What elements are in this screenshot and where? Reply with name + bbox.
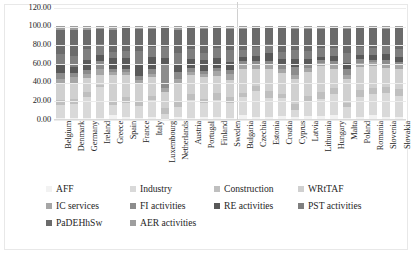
stacked-bar[interactable] (343, 26, 351, 119)
bar-segment (226, 103, 234, 118)
bar-segment (213, 48, 221, 58)
legend-swatch-icon (46, 186, 52, 192)
category-label-slot: Austria (184, 121, 197, 179)
legend-item[interactable]: AER activities (130, 218, 196, 228)
bar-segment (226, 29, 234, 50)
bar-segment (239, 115, 247, 119)
bar-segment (122, 75, 130, 97)
stacked-bar[interactable] (278, 26, 286, 119)
legend-label: WRtTAF (308, 184, 343, 194)
stacked-bar[interactable] (239, 26, 247, 119)
stacked-bar[interactable] (226, 26, 234, 119)
bar-segment (70, 30, 78, 57)
category-label-slot: Estonia (263, 121, 276, 179)
y-axis-tick-label: 40.00 (33, 78, 51, 86)
stacked-bar[interactable] (369, 26, 377, 119)
bar-segment (109, 30, 117, 52)
stacked-bar[interactable] (56, 26, 64, 119)
bar-segment (343, 29, 351, 54)
category-label-slot: Hungary (328, 121, 341, 179)
stacked-bar[interactable] (265, 26, 273, 119)
legend-label: Industry (140, 184, 172, 194)
legend-item[interactable]: WRtTAF (298, 184, 343, 194)
bar-segment (56, 83, 64, 100)
bar-segment (382, 29, 390, 47)
bar-segment (187, 118, 195, 119)
stacked-bar[interactable] (135, 26, 143, 119)
bar-segment (382, 68, 390, 88)
legend-item[interactable]: Industry (130, 184, 172, 194)
category-label-slot: Belgium (54, 121, 67, 179)
stacked-bar[interactable] (200, 26, 208, 119)
legend-swatch-icon (214, 186, 220, 192)
bar-segment (330, 69, 338, 89)
bar-segment (317, 66, 325, 92)
stacked-bar[interactable] (252, 26, 260, 119)
bar-segment (161, 92, 169, 108)
bar-segment (135, 29, 143, 51)
legend-item[interactable]: IC services (46, 201, 99, 211)
category-label-slot: Latvia (302, 121, 315, 179)
category-label-slot: Cyprus (289, 121, 302, 179)
stacked-bar[interactable] (70, 26, 78, 119)
bar-segment (330, 48, 338, 56)
stacked-bar[interactable] (304, 26, 312, 119)
category-label-slot: Croatia (276, 121, 289, 179)
bar-segment (70, 56, 78, 67)
bar-segment (369, 115, 377, 119)
bar-segment (291, 117, 299, 119)
bar-segment (330, 94, 338, 116)
stacked-bar[interactable] (174, 26, 182, 119)
category-label-slot: France (132, 121, 145, 179)
bar-segment (356, 97, 364, 116)
legend-item[interactable]: PST activities (298, 201, 361, 211)
bar-segment (252, 28, 260, 47)
bar-segment (382, 93, 390, 117)
bar-segment (187, 75, 195, 94)
bar-segment (96, 87, 104, 118)
bar-segment (109, 115, 117, 119)
bar-segment (161, 47, 169, 58)
stacked-bar[interactable] (109, 26, 117, 119)
bar-segment (83, 118, 91, 119)
stacked-bar[interactable] (213, 26, 221, 119)
bar-segment (356, 117, 364, 119)
legend-item[interactable]: Construction (214, 184, 274, 194)
stacked-bar[interactable] (395, 26, 403, 119)
legend-item[interactable]: RE activities (214, 201, 273, 211)
stacked-bar[interactable] (161, 26, 169, 119)
stacked-bar[interactable] (382, 26, 390, 119)
category-label-slot: Czechia (249, 121, 262, 179)
bar-segment (122, 117, 130, 119)
stacked-bar[interactable] (122, 26, 130, 119)
bar-segment (122, 28, 130, 50)
bar-segment (291, 67, 299, 75)
stacked-bar[interactable] (356, 26, 364, 119)
legend-swatch-icon (46, 203, 52, 209)
stacked-bar[interactable] (83, 26, 91, 119)
legend-row: AFFIndustryConstructionWRtTAF (46, 180, 376, 197)
category-label-slot: Luxembourg (158, 121, 171, 179)
stacked-bar[interactable] (187, 26, 195, 119)
bar-segment (148, 29, 156, 47)
stacked-bar[interactable] (96, 26, 104, 119)
bar-segment (213, 76, 221, 93)
stacked-bar[interactable] (317, 26, 325, 119)
stacked-bar[interactable] (330, 26, 338, 119)
bar-segment (200, 60, 208, 70)
stacked-bar[interactable] (148, 26, 156, 119)
legend-item[interactable]: AFF (46, 184, 74, 194)
bar-segment (56, 65, 64, 73)
legend-label: FI activities (140, 201, 186, 211)
bar-segment (200, 103, 208, 117)
bar-segment (304, 51, 312, 58)
bar-segment (239, 69, 247, 93)
category-label-slot: Romania (367, 121, 380, 179)
bar-segment (382, 117, 390, 119)
bar-segment (135, 106, 143, 118)
bar-segment (148, 117, 156, 119)
legend-item[interactable]: FI activities (130, 201, 186, 211)
legend-item[interactable]: PaDEHhSw (46, 218, 102, 228)
bar-segment (252, 117, 260, 119)
stacked-bar[interactable] (291, 26, 299, 119)
